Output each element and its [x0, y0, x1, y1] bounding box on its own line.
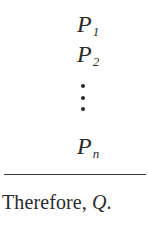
premise-n: Pn [77, 134, 99, 162]
conclusion-symbol: Q [92, 191, 107, 213]
ellipsis-dot [81, 107, 85, 111]
conclusion-suffix: . [106, 191, 111, 213]
premise-symbol: P [77, 41, 92, 67]
premise-symbol: P [77, 11, 92, 37]
conclusion: Therefore, Q. [2, 190, 112, 214]
conclusion-prefix: Therefore, [2, 191, 92, 213]
premise-subscript: 1 [93, 24, 100, 39]
premise-2: P2 [77, 42, 99, 70]
ellipsis-dot [81, 96, 85, 100]
premise-1: P1 [77, 12, 99, 40]
premise-symbol: P [77, 133, 92, 159]
premise-subscript: 2 [93, 54, 100, 69]
ellipsis-dot [81, 84, 85, 88]
inference-line [4, 174, 146, 175]
premise-subscript: n [93, 146, 100, 161]
